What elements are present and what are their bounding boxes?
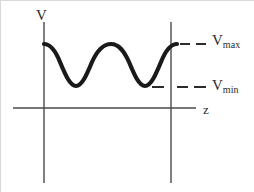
vmax-subscript: max bbox=[223, 39, 241, 50]
vmin-subscript: min bbox=[223, 84, 239, 95]
vmax-symbol: V bbox=[212, 32, 223, 48]
vmax-level-label: Vmax bbox=[212, 33, 240, 50]
standing-wave-figure: V z Vmax Vmin bbox=[0, 0, 254, 192]
z-axis-label: z bbox=[203, 103, 209, 116]
standing-wave-curve bbox=[44, 44, 177, 86]
vmin-symbol: V bbox=[212, 77, 223, 93]
vmin-level-label: Vmin bbox=[212, 78, 239, 95]
figure-canvas bbox=[0, 0, 254, 192]
v-axis-label: V bbox=[36, 8, 47, 23]
